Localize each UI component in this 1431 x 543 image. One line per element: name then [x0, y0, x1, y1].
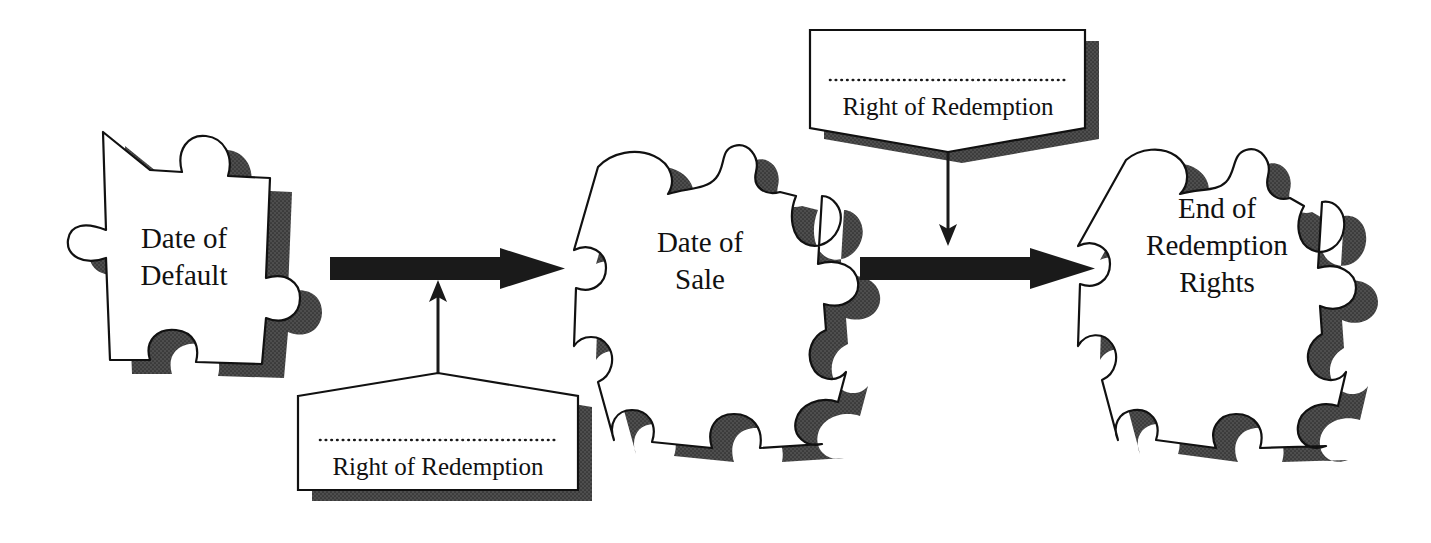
stage-piece-end-of-redemption-rights[interactable]: End of Redemption Rights: [1078, 149, 1356, 448]
stage-label-line-2: Redemption: [1146, 229, 1288, 261]
callout-bottom[interactable]: Right of Redemption: [298, 280, 578, 490]
stage-label-line-2: Sale: [675, 263, 725, 295]
callout-label: Right of Redemption: [842, 93, 1054, 120]
stage-label-line-3: Rights: [1179, 266, 1255, 298]
diagram-canvas: Date of Default Date of Sale End of Rede…: [0, 0, 1431, 543]
stage-label-line-1: End of: [1178, 192, 1256, 224]
stage-piece-date-of-default[interactable]: Date of Default: [68, 132, 300, 364]
connector-arrow-2: [860, 248, 1095, 289]
foreclosure-timeline-diagram: Date of Default Date of Sale End of Rede…: [0, 0, 1431, 543]
stage-label-line-1: Date of: [657, 226, 743, 258]
callout-label: Right of Redemption: [332, 453, 544, 480]
callout-body: [810, 30, 1085, 152]
right-arrow-icon: [330, 248, 565, 289]
connector-arrow-1: [330, 248, 565, 289]
right-arrow-icon: [860, 248, 1095, 289]
stage-label-line-1: Date of: [141, 222, 227, 254]
stage-label-line-2: Default: [141, 259, 228, 291]
